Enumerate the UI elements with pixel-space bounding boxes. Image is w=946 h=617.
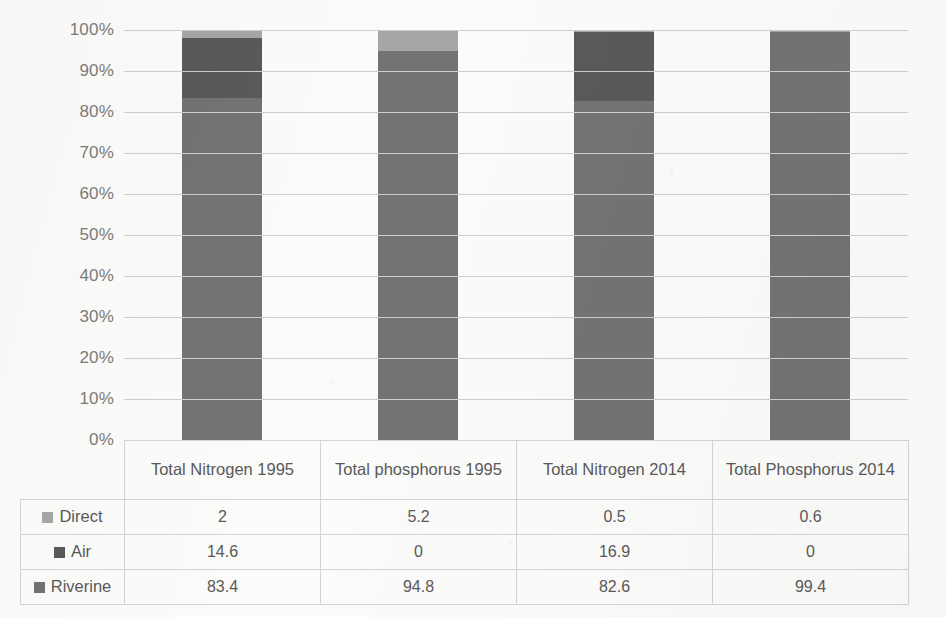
legend-label: Air bbox=[71, 542, 91, 561]
gridline bbox=[124, 276, 908, 277]
legend-label: Riverine bbox=[51, 577, 112, 596]
table-header-row: Total Nitrogen 1995Total phosphorus 1995… bbox=[21, 441, 909, 500]
y-axis-tick-label: 100% bbox=[70, 20, 114, 40]
y-axis: 100%90%80%70%60%50%40%30%20%10%0% bbox=[48, 30, 120, 440]
gridline bbox=[124, 317, 908, 318]
bar-segment-direct[interactable] bbox=[182, 30, 262, 38]
table-value-cell: 2 bbox=[125, 500, 321, 535]
gridline bbox=[124, 194, 908, 195]
legend-cell-riverine: Riverine bbox=[21, 570, 125, 605]
y-axis-tick-label: 80% bbox=[79, 102, 114, 122]
y-axis-tick-label: 60% bbox=[79, 184, 114, 204]
table-value-cell: 5.2 bbox=[321, 500, 517, 535]
gridline bbox=[124, 399, 908, 400]
table-column-header: Total Phosphorus 2014 bbox=[713, 441, 909, 500]
table-row: Direct25.20.50.6 bbox=[21, 500, 909, 535]
table-value-cell: 0 bbox=[713, 535, 909, 570]
table-value-cell: 16.9 bbox=[517, 535, 713, 570]
table-value-cell: 94.8 bbox=[321, 570, 517, 605]
table-column-header: Total Nitrogen 2014 bbox=[517, 441, 713, 500]
legend-swatch-icon bbox=[54, 547, 65, 558]
bar-segment-riverine[interactable] bbox=[182, 98, 262, 440]
legend-swatch-icon bbox=[42, 512, 53, 523]
table-value-cell: 0.6 bbox=[713, 500, 909, 535]
bar-segment-air[interactable] bbox=[182, 38, 262, 98]
y-axis-tick-label: 50% bbox=[79, 225, 114, 245]
bar-segment-air[interactable] bbox=[574, 32, 654, 101]
gridline bbox=[124, 235, 908, 236]
gridline bbox=[124, 30, 908, 31]
legend-swatch-icon bbox=[34, 582, 45, 593]
table-row: Riverine83.494.882.699.4 bbox=[21, 570, 909, 605]
bar-segment-riverine[interactable] bbox=[770, 32, 850, 440]
table-value-cell: 0 bbox=[321, 535, 517, 570]
stacked-bar-chart-figure: 100%90%80%70%60%50%40%30%20%10%0% Total … bbox=[0, 0, 946, 617]
plot-area bbox=[124, 30, 908, 440]
legend-cell-air: Air bbox=[21, 535, 125, 570]
bar-segment-riverine[interactable] bbox=[378, 51, 458, 440]
y-axis-tick-label: 70% bbox=[79, 143, 114, 163]
legend-label: Direct bbox=[59, 507, 102, 526]
y-axis-tick-label: 90% bbox=[79, 61, 114, 81]
table-column-header: Total Nitrogen 1995 bbox=[125, 441, 321, 500]
plot-region: 100%90%80%70%60%50%40%30%20%10%0% bbox=[0, 0, 946, 452]
bar-segment-direct[interactable] bbox=[378, 30, 458, 51]
table-value-cell: 99.4 bbox=[713, 570, 909, 605]
data-table-body: Total Nitrogen 1995Total phosphorus 1995… bbox=[21, 441, 909, 605]
table-row: Air14.6016.90 bbox=[21, 535, 909, 570]
gridline bbox=[124, 153, 908, 154]
legend-cell-direct: Direct bbox=[21, 500, 125, 535]
table-value-cell: 83.4 bbox=[125, 570, 321, 605]
y-axis-tick-label: 10% bbox=[79, 389, 114, 409]
table-value-cell: 82.6 bbox=[517, 570, 713, 605]
gridline bbox=[124, 112, 908, 113]
table-column-header: Total phosphorus 1995 bbox=[321, 441, 517, 500]
y-axis-tick-label: 40% bbox=[79, 266, 114, 286]
gridline bbox=[124, 71, 908, 72]
table-corner-cell bbox=[21, 441, 125, 500]
gridline bbox=[124, 358, 908, 359]
table-value-cell: 14.6 bbox=[125, 535, 321, 570]
chart-data-table: Total Nitrogen 1995Total phosphorus 1995… bbox=[20, 440, 909, 605]
y-axis-tick-label: 30% bbox=[79, 307, 114, 327]
y-axis-tick-label: 20% bbox=[79, 348, 114, 368]
table-value-cell: 0.5 bbox=[517, 500, 713, 535]
